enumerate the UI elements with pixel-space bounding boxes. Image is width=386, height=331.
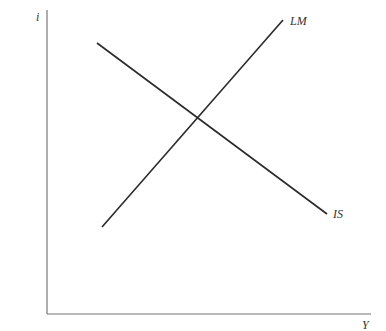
is-lm-diagram: i Y LM IS [0, 0, 386, 331]
x-axis-label: Y [362, 318, 370, 331]
lm-curve [102, 20, 283, 227]
y-axis-label: i [36, 10, 39, 24]
lm-curve-label: LM [289, 14, 308, 28]
is-curve-label: IS [332, 207, 343, 221]
is-curve [97, 43, 327, 214]
